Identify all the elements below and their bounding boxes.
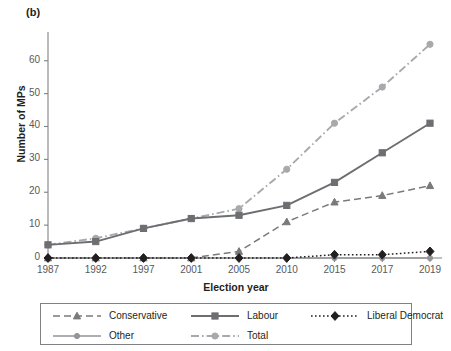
- data-point-marker: [426, 247, 434, 256]
- data-point-marker: [283, 254, 291, 263]
- legend-row: OtherTotal: [41, 325, 413, 346]
- legend-label: Liberal Democrat: [367, 310, 443, 321]
- data-point-marker: [284, 202, 290, 208]
- x-axis-tick-label: 1987: [26, 264, 70, 275]
- data-point-marker: [426, 182, 433, 189]
- data-point-marker: [331, 120, 337, 126]
- data-point-marker: [427, 120, 433, 126]
- data-point-marker: [140, 225, 146, 231]
- x-axis-tick-label: 2005: [217, 264, 261, 275]
- y-axis-tick-label: 50: [14, 87, 40, 98]
- dashed-triangle-key: [51, 309, 103, 323]
- x-axis-tick-label: 2019: [408, 264, 451, 275]
- data-point-marker: [236, 212, 242, 218]
- solid-circle-key: [51, 329, 103, 343]
- legend-label: Conservative: [109, 310, 167, 321]
- data-point-marker: [236, 206, 242, 212]
- legend-item-labour[interactable]: Labour: [189, 305, 278, 326]
- data-point-marker: [284, 166, 290, 172]
- data-point-marker: [331, 311, 339, 320]
- x-axis-tick-label: 2001: [169, 264, 213, 275]
- legend-item-conservative[interactable]: Conservative: [51, 305, 167, 326]
- series-conservative: [44, 182, 433, 261]
- series-line: [48, 123, 430, 245]
- solid-square-key: [189, 309, 241, 323]
- y-axis-tick-label: 20: [14, 185, 40, 196]
- series-labour: [45, 120, 433, 248]
- data-point-marker: [331, 179, 337, 185]
- data-point-marker: [212, 332, 218, 338]
- chart-legend: ConservativeLabourLiberal DemocratOtherT…: [40, 303, 412, 345]
- legend-label: Labour: [247, 310, 278, 321]
- y-axis-tick-label: 0: [14, 251, 40, 262]
- y-axis-tick-label: 30: [14, 152, 40, 163]
- x-axis-tick-label: 2015: [313, 264, 357, 275]
- dashdot-circle-key: [189, 329, 241, 343]
- data-point-marker: [188, 215, 194, 221]
- data-point-marker: [379, 192, 386, 199]
- data-point-marker: [427, 41, 433, 47]
- x-axis-tick-label: 1992: [74, 264, 118, 275]
- x-axis-tick-label: 2017: [360, 264, 404, 275]
- data-point-marker: [235, 254, 243, 263]
- x-axis-tick-label: 1997: [122, 264, 166, 275]
- data-point-marker: [379, 84, 385, 90]
- legend-label: Total: [247, 330, 268, 341]
- legend-item-other[interactable]: Other: [51, 325, 134, 346]
- y-axis-tick-label: 60: [14, 54, 40, 65]
- line-chart-plot: [0, 0, 451, 351]
- legend-row: ConservativeLabourLiberal Democrat: [41, 305, 413, 326]
- figure-panel-b: (b) Number of MPs Election year 01020304…: [0, 0, 451, 351]
- legend-item-total[interactable]: Total: [189, 325, 268, 346]
- y-axis-tick-label: 10: [14, 218, 40, 229]
- data-point-marker: [212, 312, 218, 318]
- legend-item-liberal-democrat[interactable]: Liberal Democrat: [309, 305, 443, 326]
- data-point-marker: [379, 150, 385, 156]
- x-axis-tick-label: 2010: [265, 264, 309, 275]
- legend-label: Other: [109, 330, 134, 341]
- data-point-marker: [45, 242, 51, 248]
- dotted-diamond-key: [309, 309, 361, 323]
- data-point-marker: [283, 218, 290, 225]
- data-point-marker: [93, 238, 99, 244]
- y-axis-tick-label: 40: [14, 119, 40, 130]
